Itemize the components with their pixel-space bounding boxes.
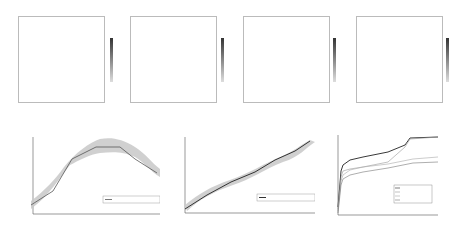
correlation-heatmap-a xyxy=(18,16,105,103)
correlation-heatmap-d xyxy=(356,16,443,103)
line-chart-f xyxy=(155,125,315,225)
colorbar-d xyxy=(446,38,449,82)
correlation-heatmap-b xyxy=(130,16,217,103)
line-chart-e xyxy=(0,125,160,225)
chart-g-rbnn xyxy=(310,125,462,229)
correlation-heatmap-c xyxy=(243,16,330,103)
chart-f-cifar100 xyxy=(155,125,315,229)
line-chart-g xyxy=(310,125,462,225)
chart-e-cifar10 xyxy=(0,125,160,229)
colorbar-c xyxy=(333,38,336,82)
colorbar-b xyxy=(221,38,224,82)
colorbar-a xyxy=(110,38,113,82)
legend-g xyxy=(394,185,432,203)
